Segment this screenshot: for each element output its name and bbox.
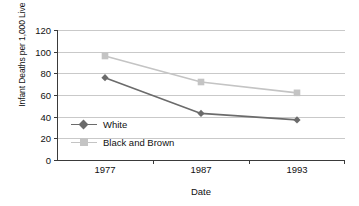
chart-figure: Infant Deaths per 1,000 Live Births 0204… — [0, 0, 359, 206]
legend-swatch-black-and-brown — [71, 136, 97, 148]
data-point-square — [198, 79, 205, 86]
y-tick-label: 80 — [40, 68, 51, 79]
legend-item-black-and-brown: Black and Brown — [71, 133, 174, 151]
x-tick-label: 1977 — [94, 164, 115, 175]
y-tick-label: 0 — [46, 155, 51, 166]
plot-area: 020406080100120 197719871993 White Black… — [57, 30, 345, 160]
x-tick-label: 1987 — [190, 164, 211, 175]
y-tick-mark — [54, 160, 58, 161]
y-tick-label: 100 — [35, 46, 51, 57]
x-axis-title: Date — [57, 186, 345, 197]
x-tick-label: 1993 — [286, 164, 307, 175]
series-line — [105, 56, 297, 93]
y-tick-label: 60 — [40, 90, 51, 101]
x-tick-mark — [344, 160, 345, 164]
y-axis-title: Infant Deaths per 1,000 Live Births — [17, 0, 27, 123]
y-tick-label: 120 — [35, 25, 51, 36]
data-point-square — [102, 53, 109, 60]
data-point-square — [294, 90, 301, 97]
data-point-diamond — [197, 110, 204, 117]
legend-label-white: White — [103, 119, 127, 130]
square-marker-icon — [80, 138, 88, 146]
y-tick-label: 40 — [40, 111, 51, 122]
y-tick-label: 20 — [40, 133, 51, 144]
chart-legend: White Black and Brown — [71, 115, 174, 151]
legend-item-white: White — [71, 115, 174, 133]
data-point-diamond — [293, 116, 300, 123]
x-tick-mark — [249, 160, 250, 164]
gridline — [57, 160, 345, 161]
legend-swatch-white — [71, 118, 97, 130]
diamond-marker-icon — [79, 119, 89, 129]
data-point-diamond — [101, 74, 108, 81]
x-tick-mark — [153, 160, 154, 164]
legend-label-black-and-brown: Black and Brown — [103, 137, 174, 148]
